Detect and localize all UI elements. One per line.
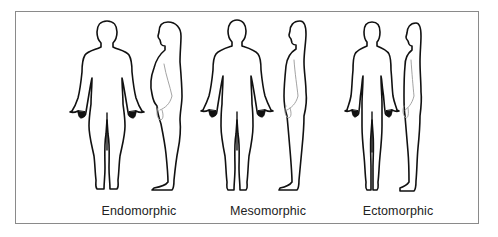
body-type-figures [0,0,498,237]
ectomorphic-side-figure [400,23,421,191]
mesomorphic-front-figure [201,20,273,190]
endomorphic-label: Endomorphic [102,204,177,218]
endomorphic-front-figure [70,21,144,189]
ectomorphic-front-figure [345,22,399,190]
endomorphic-side-figure [151,22,182,190]
mesomorphic-label: Mesomorphic [230,204,306,218]
mesomorphic-side-figure [279,21,306,190]
ectomorphic-label: Ectomorphic [363,204,434,218]
